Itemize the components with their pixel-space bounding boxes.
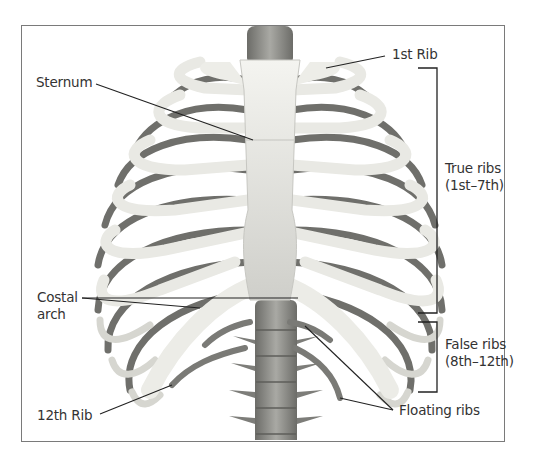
rib-cage-illustration	[0, 0, 540, 464]
costal-arch-label: Costal arch	[37, 289, 78, 323]
first-rib-label: 1st Rib	[392, 46, 438, 63]
true-ribs-label: True ribs (1st–7th)	[445, 160, 504, 194]
false-ribs-label-line2: (8th–12th)	[445, 353, 514, 370]
true-ribs-label-line1: True ribs	[445, 160, 504, 177]
true-ribs-label-line2: (1st–7th)	[445, 177, 504, 194]
costal-arch-label-line1: Costal	[37, 289, 78, 306]
sternum-label: Sternum	[36, 74, 92, 91]
twelfth-rib-label: 12th Rib	[37, 407, 92, 424]
false-ribs-label-line1: False ribs	[445, 336, 514, 353]
false-ribs-label: False ribs (8th–12th)	[445, 336, 514, 370]
costal-arch-label-line2: arch	[37, 306, 78, 323]
twelfth-rib-leader	[100, 385, 172, 414]
floating-ribs-label: Floating ribs	[399, 402, 480, 419]
